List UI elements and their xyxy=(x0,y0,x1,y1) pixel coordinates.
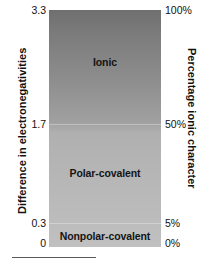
region-label-ionic: Ionic xyxy=(49,56,161,68)
electronegativity-bond-type-figure: Ionic Polar-covalent Nonpolar-covalent 3… xyxy=(0,0,214,262)
right-tick-50-percent: 50% xyxy=(165,119,186,130)
left-tick-1-7: 1.7 xyxy=(31,119,46,130)
left-axis-title: Difference in electronegativities xyxy=(16,48,28,214)
region-label-polar-covalent: Polar-covalent xyxy=(49,167,161,179)
left-tick-0: 0 xyxy=(40,238,46,249)
left-tick-0-3: 0.3 xyxy=(31,218,46,229)
bond-type-gradient-band xyxy=(49,10,161,247)
right-axis-title: Percentage ionic character xyxy=(186,48,198,189)
region-divider-polar-nonpolar xyxy=(49,223,161,224)
bottom-rule xyxy=(12,257,96,258)
right-tick-100-percent: 100% xyxy=(165,5,192,16)
right-tick-0-percent: 0% xyxy=(165,238,180,249)
right-tick-5-percent: 5% xyxy=(165,218,180,229)
region-label-nonpolar-covalent: Nonpolar-covalent xyxy=(49,230,161,242)
region-divider-ionic-polar xyxy=(49,124,161,125)
left-tick-3-3: 3.3 xyxy=(31,5,46,16)
